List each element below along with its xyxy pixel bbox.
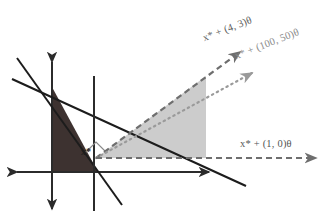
ray-1-0-label: x* + (1, 0)θ: [240, 138, 292, 149]
constraint-line-1: [17, 58, 122, 205]
optimum-point-label: x*: [81, 146, 91, 157]
figure-root: x* x* + (4, 3)θ x* + (100, 50)θ x* + (1,…: [0, 0, 326, 220]
